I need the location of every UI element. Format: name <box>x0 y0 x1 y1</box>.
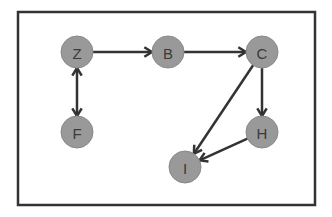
node-label: B <box>163 45 173 62</box>
node-c: C <box>246 36 278 68</box>
node-h: H <box>246 116 278 148</box>
node-label: F <box>72 125 81 142</box>
node-f: F <box>61 116 93 148</box>
node-label: C <box>257 45 268 62</box>
node-i: I <box>169 151 201 183</box>
graph-diagram: ZBCFHI <box>0 0 332 217</box>
node-z: Z <box>61 36 93 68</box>
node-b: B <box>152 36 184 68</box>
node-label: H <box>257 125 268 142</box>
node-label: I <box>183 160 187 177</box>
node-label: Z <box>72 45 81 62</box>
